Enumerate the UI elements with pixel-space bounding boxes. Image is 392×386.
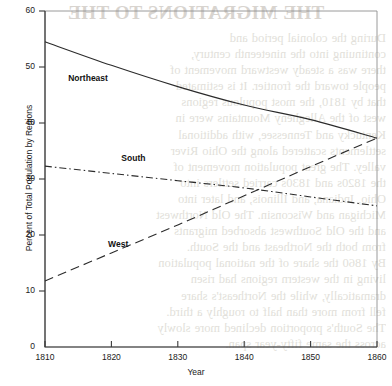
series-line-south: [45, 166, 377, 206]
x-axis-tick-label: 1810: [25, 352, 65, 362]
x-axis-title: Year: [0, 367, 392, 377]
chart-canvas: [0, 0, 392, 386]
axis-spines: [45, 11, 377, 347]
y-axis-tick-label: 0: [13, 341, 35, 351]
x-axis-tick-label: 1850: [291, 352, 331, 362]
y-axis-tick-label: 60: [13, 5, 35, 15]
series-line-west: [45, 138, 377, 281]
x-axis-tick-label: 1860: [357, 352, 392, 362]
plot-frame: [45, 11, 377, 347]
series-line-northeast: [45, 42, 377, 138]
x-axis-tick-label: 1830: [158, 352, 198, 362]
x-axis-tick-label: 1820: [91, 352, 131, 362]
x-axis-tick-label: 1840: [224, 352, 264, 362]
y-axis-title: Percent of Total Population by Regions: [24, 53, 34, 303]
series-label-northeast: Northeast: [68, 73, 108, 83]
series-label-south: South: [121, 153, 145, 163]
series-label-west: West: [108, 239, 128, 249]
migration-line-chart: 0102030405060181018201830184018501860Yea…: [0, 0, 392, 386]
